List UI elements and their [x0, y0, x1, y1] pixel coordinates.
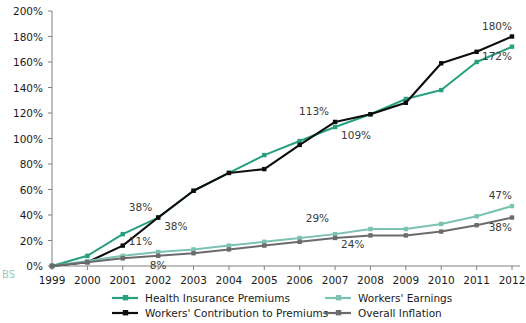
- y-tick-label: 20%: [20, 235, 43, 247]
- legend-item[interactable]: Workers' Earnings: [325, 292, 452, 304]
- series-workers-contribution-to-premiums: [50, 34, 514, 268]
- data-label: 47%: [489, 189, 512, 201]
- legend-swatch-marker: [336, 310, 341, 315]
- x-tick-label: 2010: [428, 274, 455, 286]
- y-tick-label: 80%: [20, 158, 43, 170]
- data-point: [439, 229, 443, 233]
- legend-swatch-marker: [123, 295, 128, 300]
- y-tick-label: 0%: [26, 260, 43, 272]
- watermark: BS: [2, 269, 15, 280]
- data-point: [262, 240, 266, 244]
- data-point: [333, 232, 337, 236]
- legend-swatch-marker: [336, 295, 341, 300]
- data-point: [50, 264, 54, 268]
- line-chart: 0%20%40%60%80%100%120%140%160%180%200% 1…: [0, 0, 526, 323]
- data-point: [191, 189, 195, 193]
- data-point: [121, 232, 125, 236]
- data-point: [510, 34, 514, 38]
- data-point: [439, 61, 443, 65]
- data-point: [191, 251, 195, 255]
- legend-item[interactable]: Health Insurance Premiums: [112, 292, 290, 304]
- data-point: [404, 233, 408, 237]
- data-point: [227, 171, 231, 175]
- data-point: [262, 243, 266, 247]
- x-tick-label: 2012: [499, 274, 526, 286]
- data-point: [121, 243, 125, 247]
- legend-item[interactable]: Workers' Contribution to Premiums: [112, 307, 328, 319]
- data-label: 38%: [129, 201, 152, 213]
- data-label: 180%: [482, 20, 512, 32]
- data-point: [191, 247, 195, 251]
- x-tick-label: 2008: [357, 274, 384, 286]
- legend-label: Health Insurance Premiums: [145, 292, 290, 304]
- legend-label: Workers' Contribution to Premiums: [145, 307, 328, 319]
- x-tick-label: 2009: [392, 274, 419, 286]
- data-label: 38%: [164, 220, 187, 232]
- x-tick-label: 2000: [74, 274, 101, 286]
- chart-series-group: [50, 34, 514, 268]
- legend-label: Workers' Earnings: [358, 292, 452, 304]
- data-point: [227, 247, 231, 251]
- data-point: [227, 243, 231, 247]
- x-tick-label: 2005: [251, 274, 278, 286]
- data-point: [404, 227, 408, 231]
- y-tick-label: 120%: [13, 107, 43, 119]
- data-point: [262, 167, 266, 171]
- data-point: [333, 236, 337, 240]
- chart-container: 0%20%40%60%80%100%120%140%160%180%200% 1…: [0, 0, 526, 323]
- data-point: [85, 254, 89, 258]
- data-label: 38%: [489, 221, 512, 233]
- y-axis-ticks: 0%20%40%60%80%100%120%140%160%180%200%: [13, 5, 43, 272]
- data-point: [333, 120, 337, 124]
- data-point: [474, 60, 478, 64]
- data-point: [368, 227, 372, 231]
- data-point: [297, 236, 301, 240]
- chart-annotations: 38%38%11%8%113%109%29%24%180%172%47%38%: [129, 20, 512, 271]
- data-point: [474, 214, 478, 218]
- watermark-text: BS: [2, 269, 15, 280]
- x-tick-label: 2007: [322, 274, 349, 286]
- data-point: [333, 125, 337, 129]
- y-tick-label: 140%: [13, 82, 43, 94]
- x-tick-label: 1999: [39, 274, 66, 286]
- x-tick-label: 2001: [109, 274, 136, 286]
- x-tick-label: 2011: [463, 274, 490, 286]
- x-axis-ticks: 1999200020012002200320042005200620072008…: [39, 274, 526, 286]
- data-label: 172%: [482, 50, 512, 62]
- legend-swatch-marker: [123, 310, 128, 315]
- x-tick-label: 2002: [145, 274, 172, 286]
- data-point: [85, 260, 89, 264]
- data-point: [474, 223, 478, 227]
- data-point: [510, 215, 514, 219]
- data-point: [121, 256, 125, 260]
- y-tick-label: 200%: [13, 5, 43, 17]
- y-tick-label: 40%: [20, 209, 43, 221]
- data-point: [368, 112, 372, 116]
- legend-label: Overall Inflation: [358, 307, 442, 319]
- data-point: [404, 101, 408, 105]
- data-label: 11%: [129, 235, 152, 247]
- data-label: 29%: [306, 212, 329, 224]
- legend-item[interactable]: Overall Inflation: [325, 307, 442, 319]
- data-point: [156, 215, 160, 219]
- data-point: [439, 222, 443, 226]
- data-point: [297, 240, 301, 244]
- data-point: [156, 250, 160, 254]
- data-point: [439, 88, 443, 92]
- data-label: 109%: [341, 129, 371, 141]
- x-tick-label: 2004: [216, 274, 243, 286]
- data-point: [297, 143, 301, 147]
- data-label: 113%: [299, 105, 329, 117]
- y-tick-label: 60%: [20, 184, 43, 196]
- x-tick-label: 2003: [180, 274, 207, 286]
- data-point: [510, 204, 514, 208]
- data-point: [262, 153, 266, 157]
- data-point: [156, 254, 160, 258]
- data-point: [510, 45, 514, 49]
- y-tick-label: 100%: [13, 133, 43, 145]
- y-tick-label: 180%: [13, 31, 43, 43]
- data-label: 24%: [341, 238, 364, 250]
- x-tick-label: 2006: [286, 274, 313, 286]
- data-point: [474, 50, 478, 54]
- data-label: 8%: [150, 259, 167, 271]
